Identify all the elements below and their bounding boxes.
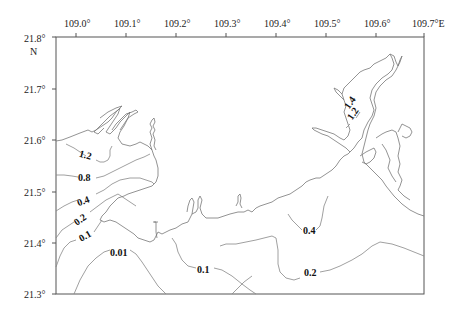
y-tick-label: 21.6°	[24, 135, 46, 146]
y-tick-label: 21.3°	[24, 289, 46, 300]
contour-label: 1.2	[78, 148, 93, 162]
contour-label: 0.2	[72, 211, 89, 227]
x-tick-label: 109.7°E	[412, 18, 445, 29]
contour-label: 0.2	[304, 267, 317, 278]
contour-label: 0.4	[303, 225, 316, 236]
x-tick-label: 109.1°	[114, 18, 141, 29]
contour-label: 0.1	[77, 228, 93, 244]
y-tick-label: 21.8°	[24, 33, 46, 44]
x-tick-label: 109.4°	[264, 18, 291, 29]
contour-label: 0.4	[75, 193, 91, 208]
contour-map: 109.0° 109.1° 109.2° 109.3° 109.4° 109.5…	[0, 0, 464, 318]
y-tick-label: 21.4°	[24, 238, 46, 249]
x-tick-label: 109.6°	[364, 18, 391, 29]
x-axis: 109.0° 109.1° 109.2° 109.3° 109.4° 109.5…	[64, 18, 445, 37]
y-tick-label: 21.5°	[24, 187, 46, 198]
contour-label: 0.1	[197, 264, 210, 275]
contour-label: 0.01	[110, 247, 128, 258]
y-axis: 21.8° N 21.7° 21.6° 21.5° 21.4° 21.3°	[24, 33, 56, 300]
contour-labels: 1.2 0.8 0.4 0.2 0.1 0.01 0.1 0.4 0.2 1.4…	[72, 94, 361, 278]
x-tick-label: 109.2°	[164, 18, 191, 29]
y-tick-label: 21.7°	[24, 84, 46, 95]
contour-label: 0.8	[78, 172, 91, 183]
x-tick-label: 109.3°	[214, 18, 241, 29]
x-tick-label: 109.0°	[64, 18, 91, 29]
y-axis-north-label: N	[30, 46, 37, 57]
x-tick-label: 109.5°	[314, 18, 341, 29]
